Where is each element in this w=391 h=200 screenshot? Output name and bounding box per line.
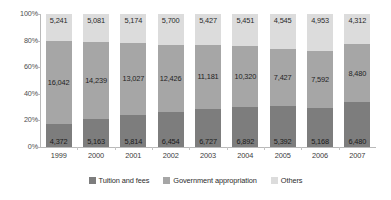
legend-item[interactable]: Others <box>271 176 303 185</box>
bar-segment-tuition-and-fees[interactable]: 4,372 <box>46 124 72 147</box>
legend-item[interactable]: Government appropriation <box>163 176 256 185</box>
x-axis-tick-mark <box>301 147 302 150</box>
y-axis-tick-label: 20% <box>4 116 38 124</box>
y-axis-tick-mark <box>38 94 41 95</box>
plot-area: 5,24116,0424,3725,08114,2395,1635,17413,… <box>40 14 376 147</box>
bar-segment-government-appropriation[interactable]: 10,320 <box>232 46 258 107</box>
bar-value-label: 16,042 <box>48 78 70 87</box>
bar-stack[interactable]: 5,42711,1816,727 <box>195 14 221 147</box>
bar-segment-others[interactable]: 5,451 <box>232 14 258 46</box>
bar-segment-government-appropriation[interactable]: 7,427 <box>270 49 296 106</box>
bar-value-label: 5,700 <box>162 16 180 25</box>
bar-segment-tuition-and-fees[interactable]: 5,392 <box>270 106 296 147</box>
bar-segment-government-appropriation[interactable]: 12,426 <box>158 45 184 112</box>
legend-label: Tuition and fees <box>99 176 150 185</box>
bar-stack[interactable]: 5,24116,0424,372 <box>46 14 72 147</box>
bar-segment-others[interactable]: 5,427 <box>195 14 221 45</box>
bar-stack[interactable]: 4,5457,4275,392 <box>270 14 296 147</box>
bar-stack[interactable]: 5,08114,2395,163 <box>83 14 109 147</box>
bar-value-label: 4,312 <box>348 16 366 25</box>
bar-stack[interactable]: 5,70012,4266,454 <box>158 14 184 147</box>
x-axis-tick-mark <box>339 147 340 150</box>
bar-segment-others[interactable]: 5,700 <box>158 14 184 45</box>
y-axis-tick-label: 40% <box>4 90 38 98</box>
x-axis-tick-label: 2007 <box>335 151 379 160</box>
bar-value-label: 6,727 <box>199 137 217 146</box>
legend-swatch-icon <box>89 177 96 184</box>
y-axis-tick-mark <box>38 120 41 121</box>
x-axis-tick-mark <box>227 147 228 150</box>
bar-stack[interactable]: 4,3128,4806,480 <box>344 14 370 147</box>
x-axis-tick-mark <box>264 147 265 150</box>
bar-value-label: 5,174 <box>124 16 142 25</box>
x-axis-line <box>40 147 376 148</box>
bar-value-label: 5,168 <box>311 137 329 146</box>
bar-segment-others[interactable]: 5,174 <box>120 14 146 43</box>
legend-swatch-icon <box>163 177 170 184</box>
bar-segment-government-appropriation[interactable]: 11,181 <box>195 45 221 109</box>
x-axis-tick-mark <box>77 147 78 150</box>
bar-value-label: 14,239 <box>85 76 107 85</box>
y-axis-tick-mark <box>38 147 41 148</box>
y-axis-tick-label: 100% <box>4 10 38 18</box>
bar-segment-government-appropriation[interactable]: 7,592 <box>307 51 333 108</box>
bar-segment-others[interactable]: 4,312 <box>344 14 370 44</box>
y-axis-tick-label: 80% <box>4 37 38 45</box>
legend-swatch-icon <box>271 177 278 184</box>
legend-item[interactable]: Tuition and fees <box>89 176 150 185</box>
y-axis-tick-mark <box>38 14 41 15</box>
bar-value-label: 4,545 <box>274 16 292 25</box>
bar-segment-others[interactable]: 5,081 <box>83 14 109 42</box>
bar-segment-government-appropriation[interactable]: 16,042 <box>46 41 72 124</box>
bar-value-label: 7,427 <box>274 73 292 82</box>
chart-legend: Tuition and feesGovernment appropriation… <box>0 176 391 185</box>
bar-segment-others[interactable]: 4,953 <box>307 14 333 51</box>
bar-value-label: 5,392 <box>274 137 292 146</box>
bar-value-label: 8,480 <box>348 69 366 78</box>
bar-value-label: 6,480 <box>348 137 366 146</box>
bar-segment-government-appropriation[interactable]: 14,239 <box>83 42 109 119</box>
bar-segment-others[interactable]: 5,241 <box>46 14 72 41</box>
bar-value-label: 5,163 <box>87 137 105 146</box>
legend-label: Others <box>281 176 303 185</box>
bar-stack[interactable]: 4,9537,5925,168 <box>307 14 333 147</box>
bar-value-label: 5,814 <box>124 137 142 146</box>
bar-value-label: 6,454 <box>162 137 180 146</box>
bar-segment-others[interactable]: 4,545 <box>270 14 296 49</box>
legend-label: Government appropriation <box>173 176 256 185</box>
bar-segment-tuition-and-fees[interactable]: 6,727 <box>195 109 221 147</box>
bar-value-label: 13,027 <box>122 74 144 83</box>
y-axis-tick-label: 60% <box>4 63 38 71</box>
bar-segment-tuition-and-fees[interactable]: 6,454 <box>158 112 184 147</box>
bar-value-label: 7,592 <box>311 75 329 84</box>
y-axis-tick-label: 0% <box>4 143 38 151</box>
x-axis-tick-mark <box>115 147 116 150</box>
bar-stack[interactable]: 5,45110,3206,892 <box>232 14 258 147</box>
bar-segment-tuition-and-fees[interactable]: 5,163 <box>83 119 109 147</box>
bar-value-label: 10,320 <box>234 72 256 81</box>
bar-segment-tuition-and-fees[interactable]: 6,892 <box>232 107 258 147</box>
bar-segment-tuition-and-fees[interactable]: 6,480 <box>344 102 370 147</box>
x-axis-tick-mark <box>152 147 153 150</box>
x-axis-tick-mark <box>189 147 190 150</box>
y-axis-tick-mark <box>38 67 41 68</box>
bar-value-label: 11,181 <box>197 72 218 81</box>
bar-value-label: 4,953 <box>311 16 329 25</box>
bar-value-label: 5,241 <box>50 16 68 25</box>
y-axis-tick-mark <box>38 41 41 42</box>
y-axis: 100%80%60%40%20%0% <box>0 0 38 200</box>
bar-value-label: 5,451 <box>236 16 254 25</box>
bar-value-label: 12,426 <box>160 74 182 83</box>
bar-value-label: 5,427 <box>199 16 217 25</box>
bar-segment-tuition-and-fees[interactable]: 5,168 <box>307 108 333 147</box>
stacked-bar-chart: 100%80%60%40%20%0% 5,24116,0424,3725,081… <box>0 0 391 200</box>
bar-value-label: 5,081 <box>87 16 105 25</box>
bar-segment-tuition-and-fees[interactable]: 5,814 <box>120 115 146 147</box>
bar-value-label: 4,372 <box>50 137 68 146</box>
bar-segment-government-appropriation[interactable]: 8,480 <box>344 44 370 103</box>
bar-stack[interactable]: 5,17413,0275,814 <box>120 14 146 147</box>
bar-segment-government-appropriation[interactable]: 13,027 <box>120 43 146 115</box>
bar-value-label: 6,892 <box>236 137 254 146</box>
